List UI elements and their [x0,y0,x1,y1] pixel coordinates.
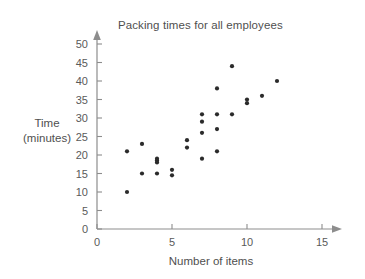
y-tick-label: 30 [76,112,88,124]
data-point [260,94,264,98]
data-point [185,138,189,142]
data-point [155,160,159,164]
y-tick-label: 25 [76,131,88,143]
plot-area: 05101520253035404550 051015 [0,0,365,279]
data-point [185,146,189,150]
y-tick-label: 45 [76,57,88,69]
data-point [125,190,129,194]
x-tick-label: 0 [94,236,100,248]
data-point [140,142,144,146]
data-point [200,120,204,124]
x-tick-label: 15 [316,236,328,248]
data-point [215,86,219,90]
data-point [245,97,249,101]
y-tick-label: 15 [76,168,88,180]
y-tick-label: 20 [76,149,88,161]
data-point [215,112,219,116]
data-point [230,112,234,116]
data-point [170,168,174,172]
data-point [215,127,219,131]
data-point [200,112,204,116]
y-axis-arrow-icon [93,30,101,40]
y-tick-label: 35 [76,94,88,106]
data-point [215,149,219,153]
data-point [245,101,249,105]
data-point [230,64,234,68]
x-axis-arrow-icon [332,225,342,233]
y-tick-label: 5 [82,205,88,217]
data-point [275,79,279,83]
y-tick-label: 0 [82,223,88,235]
data-point [200,131,204,135]
y-tick-label: 50 [76,38,88,50]
x-tick-label: 5 [169,236,175,248]
y-tick-label: 10 [76,186,88,198]
data-point [170,173,174,177]
y-tick-label: 40 [76,75,88,87]
data-point [140,171,144,175]
data-point [200,157,204,161]
y-axis-ticks: 05101520253035404550 [76,38,102,235]
scatter-plot-figure: Packing times for all employees Time (mi… [0,0,365,279]
data-point [155,171,159,175]
data-point [125,149,129,153]
x-axis-ticks: 051015 [94,224,328,248]
x-tick-label: 10 [241,236,253,248]
data-points-layer [125,64,279,194]
